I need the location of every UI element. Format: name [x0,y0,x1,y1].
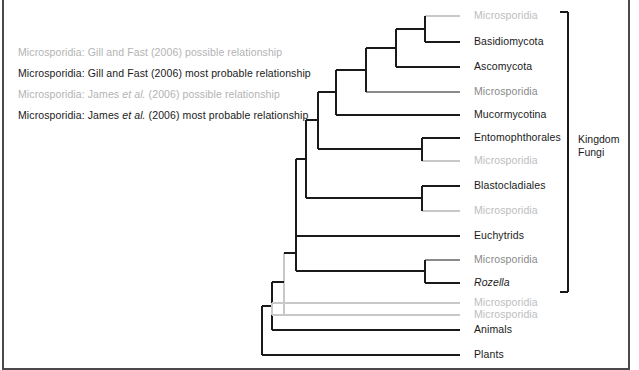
tree-branches [262,16,460,355]
kingdom-fungi-label: Kingdom Fungi [578,133,619,158]
tip-label-t6: Entomophthorales [474,132,561,143]
tip-label-t5: Mucormycotina [474,109,547,120]
tip-label-t4: Microsporidia [474,86,538,97]
tip-label-t3: Ascomycota [474,61,532,72]
tip-label-t13: Microsporidia [474,297,538,308]
tip-label-t14: Microsporidia [474,309,538,320]
kingdom-fungi-bracket [560,12,568,292]
tip-label-t1: Microsporidia [474,10,538,21]
tip-label-t12: Rozella [474,277,510,288]
tip-label-t10: Euchytrids [474,230,524,241]
tip-label-t7: Microsporidia [474,155,538,166]
tip-label-t16: Plants [474,349,504,360]
phylogenetic-tree-figure: Microsporidia: Gill and Fast (2006) poss… [0,0,639,370]
tip-label-t2: Basidiomycota [474,36,544,47]
tip-label-t15: Animals [474,324,512,335]
tip-label-t8: Blastocladiales [474,180,546,191]
tip-label-t9: Microsporidia [474,205,538,216]
tip-label-t11: Microsporidia [474,254,538,265]
